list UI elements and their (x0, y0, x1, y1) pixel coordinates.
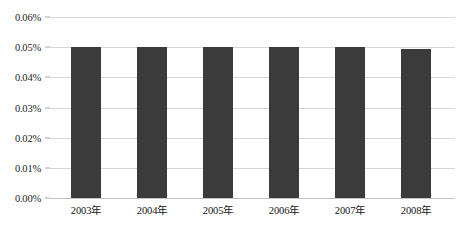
y-axis-tick-label: 0.04% (0, 72, 41, 83)
y-axis-tick-label: 0.00% (0, 193, 41, 204)
gridline (50, 77, 455, 78)
gridline (50, 17, 455, 18)
x-axis-tick-label: 2005年 (185, 202, 251, 217)
y-axis: 0.06%0.05%0.04%0.03%0.02%0.01%0.00% (0, 0, 50, 241)
gridline (50, 108, 455, 109)
y-axis-tick-label: 0.06% (0, 12, 41, 23)
bar (269, 47, 299, 198)
x-axis-tick-label: 2006年 (251, 202, 317, 217)
gridline (50, 47, 455, 48)
y-axis-tick-label: 0.02% (0, 132, 41, 143)
plot-area (50, 17, 455, 198)
axis-baseline (50, 198, 455, 199)
x-axis-tick-label: 2003年 (53, 202, 119, 217)
y-axis-tick-label: 0.05% (0, 42, 41, 53)
x-axis-tick-label: 2008年 (383, 202, 449, 217)
y-axis-tick-label: 0.01% (0, 162, 41, 173)
bar (71, 47, 101, 198)
y-axis-tick-label: 0.03% (0, 102, 41, 113)
gridline (50, 168, 455, 169)
x-axis: 2003年2004年2005年2006年2007年2008年 (50, 202, 455, 220)
bar (335, 47, 365, 198)
bar (401, 49, 431, 198)
gridline (50, 138, 455, 139)
x-axis-tick-label: 2004年 (119, 202, 185, 217)
bar-chart: 0.06%0.05%0.04%0.03%0.02%0.01%0.00% 2003… (0, 0, 461, 241)
bar (137, 47, 167, 198)
bar (203, 47, 233, 198)
x-axis-tick-label: 2007年 (317, 202, 383, 217)
